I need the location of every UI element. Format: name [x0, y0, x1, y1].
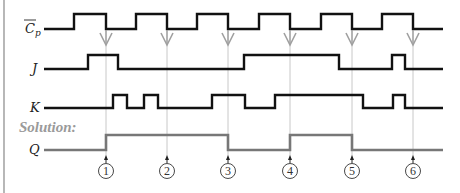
edge-number: 1	[103, 164, 109, 178]
falling-edge-arrow-icon	[407, 30, 419, 45]
up-arrow-icon	[165, 155, 169, 160]
waveform-j	[44, 55, 443, 69]
label-j: J	[29, 61, 38, 76]
waveform-q	[44, 135, 443, 150]
waveforms	[44, 14, 443, 150]
falling-edge-arrow-icon	[100, 30, 112, 45]
waveform-k	[44, 95, 443, 108]
solution-label: Solution:	[19, 119, 77, 135]
clock-edge-guides	[106, 29, 413, 158]
edge-number: 2	[164, 164, 170, 178]
up-arrow-icon	[350, 155, 354, 160]
up-arrow-icon	[288, 155, 292, 160]
falling-edge-arrow-icon	[222, 30, 234, 45]
up-arrow-icon	[411, 155, 415, 160]
edge-number: 5	[349, 164, 355, 178]
edge-number: 4	[287, 164, 293, 178]
edge-number: 3	[225, 164, 231, 178]
up-arrow-icon	[104, 155, 108, 160]
falling-edge-arrow-icon	[284, 30, 296, 45]
label-q: Q	[29, 142, 40, 157]
timing-diagram: Cp J K Solution: Q 123456	[0, 0, 460, 193]
label-cp: Cp	[25, 21, 41, 38]
falling-edge-arrow-icon	[346, 30, 358, 45]
edge-number: 6	[410, 164, 416, 178]
signal-labels: Cp J K Solution: Q	[19, 20, 77, 157]
up-arrow-icon	[226, 155, 230, 160]
waveform-cp	[44, 14, 443, 29]
label-k: K	[29, 100, 41, 115]
falling-edge-arrow-icon	[161, 30, 173, 45]
edge-markers: 123456	[99, 30, 421, 179]
